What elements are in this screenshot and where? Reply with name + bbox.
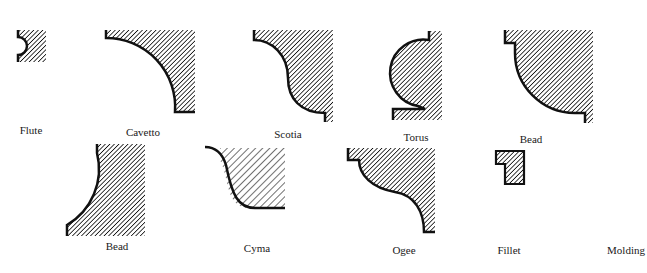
fillet-profile: [496, 151, 524, 184]
bead-bottom-profile: [67, 144, 145, 236]
flute-profile: [18, 30, 46, 62]
label-bead-top: Bead: [520, 133, 543, 145]
caption-molding: Molding: [607, 244, 645, 256]
bead-top-profile: [505, 30, 593, 123]
label-fillet: Fillet: [497, 244, 520, 256]
label-cyma: Cyma: [244, 242, 270, 254]
label-ogee: Ogee: [392, 244, 415, 256]
label-bead-bottom: Bead: [106, 240, 129, 252]
label-torus: Torus: [404, 131, 429, 143]
label-flute: Flute: [20, 124, 43, 136]
ogee-profile: [348, 148, 435, 232]
torus-profile: [390, 31, 442, 120]
label-scotia: Scotia: [274, 128, 302, 140]
label-cavetto: Cavetto: [126, 126, 160, 138]
scotia-profile: [254, 30, 333, 122]
molding-diagram: [0, 0, 647, 273]
cavetto-profile: [106, 30, 195, 112]
cyma-profile: [205, 147, 285, 208]
